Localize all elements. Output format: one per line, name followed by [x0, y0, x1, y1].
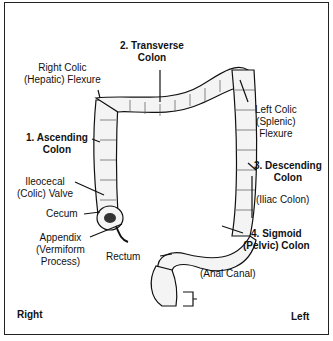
ileocecal-valve-shape	[104, 213, 116, 223]
label-line: 1. Ascending	[26, 132, 88, 144]
label-line: 4. Sigmoid	[243, 228, 310, 240]
label-appendix: Appendix (Vermiform Process)	[36, 232, 85, 268]
appendix-shape	[116, 226, 128, 242]
label-line: Flexure	[255, 128, 297, 140]
label-line: (Splenic)	[255, 116, 297, 128]
label-line: Ileocecal	[17, 176, 73, 188]
label-hepatic-flexure: Right Colic (Hepatic) Flexure	[24, 62, 101, 86]
label-line: (Pelvic) Colon	[243, 240, 310, 252]
label-line: Process)	[36, 256, 85, 268]
label-cecum: Cecum	[46, 208, 78, 220]
label-line: Colon	[120, 52, 184, 64]
label-line: Colon	[254, 172, 322, 184]
descending-colon-shape	[232, 70, 257, 236]
label-right: Right	[17, 309, 43, 321]
transverse-colon-shape	[96, 67, 252, 112]
label-iliac-colon: (Iliac Colon)	[256, 194, 309, 206]
label-anal-canal: (Anal Canal)	[200, 268, 256, 280]
label-left: Left	[291, 311, 309, 323]
rectum-shape	[151, 266, 177, 306]
label-ascending-colon: 1. Ascending Colon	[26, 132, 88, 156]
label-line: 3. Descending	[254, 160, 322, 172]
label-sigmoid-colon: 4. Sigmoid (Pelvic) Colon	[243, 228, 310, 252]
label-transverse-colon: 2. Transverse Colon	[120, 40, 184, 64]
label-line: Colon	[26, 144, 88, 156]
label-line: (Vermiform	[36, 244, 85, 256]
label-ileocecal-valve: Ileocecal (Colic) Valve	[17, 176, 73, 200]
label-line: Right Colic	[24, 62, 101, 74]
ascending-colon-shape	[94, 100, 118, 215]
label-line: Left Colic	[255, 104, 297, 116]
label-descending-colon: 3. Descending Colon	[254, 160, 322, 184]
sigmoid-colon-shape	[158, 236, 256, 272]
label-line: (Hepatic) Flexure	[24, 74, 101, 86]
label-line: 2. Transverse	[120, 40, 184, 52]
label-rectum: Rectum	[106, 251, 140, 263]
label-line: (Colic) Valve	[17, 188, 73, 200]
label-splenic-flexure: Left Colic (Splenic) Flexure	[255, 104, 297, 140]
label-line: Appendix	[36, 232, 85, 244]
